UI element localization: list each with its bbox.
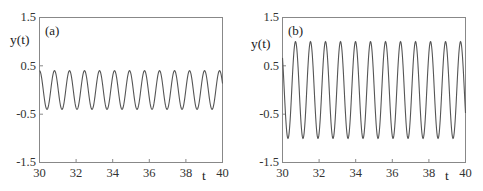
panel-b-xtick-label: 30 <box>276 166 289 180</box>
panel-b-xtick-label: 34 <box>349 166 362 180</box>
figure: 1.5 0.5 -0.5 -1.5 y(t) (a) 30 32 34 36 3… <box>0 0 483 191</box>
panel-b-curve <box>283 42 466 139</box>
panel-a-xtick-label: 32 <box>70 166 83 180</box>
panel-a-ytick-label: -0.5 <box>16 107 36 121</box>
panel-b-ytick-label: 0.5 <box>263 59 279 73</box>
panel-a-xlabel: t <box>202 168 206 183</box>
panel-b-ytick-label: -0.5 <box>259 107 279 121</box>
panel-a-xtick-label: 36 <box>143 166 156 180</box>
panel-a: 1.5 0.5 -0.5 -1.5 y(t) (a) 30 32 34 36 3… <box>10 10 229 183</box>
panel-a-ytick-label: 1.5 <box>20 10 36 24</box>
panel-a-frame <box>40 18 223 163</box>
panel-a-xtick-label: 30 <box>33 166 46 180</box>
panel-b: 1.5 0.5 -0.5 -1.5 y(t) (b) 30 32 34 36 3… <box>251 10 472 183</box>
panel-a-curve <box>40 71 223 110</box>
panel-b-ylabel: y(t) <box>251 36 271 51</box>
panel-a-xtick-label: 40 <box>216 166 229 180</box>
panel-a-label: (a) <box>45 23 59 38</box>
panel-b-xtick-label: 32 <box>313 166 326 180</box>
panel-a-ylabel: y(t) <box>10 32 30 47</box>
panel-b-label: (b) <box>288 23 303 38</box>
panel-b-xtick-label: 40 <box>459 166 472 180</box>
panel-a-xtick-label: 34 <box>106 166 119 180</box>
panel-b-xlabel: t <box>445 168 449 183</box>
panel-a-ytick-label: 0.5 <box>20 59 36 73</box>
panel-b-ytick-label: 1.5 <box>263 10 279 24</box>
panel-b-xtick-label: 36 <box>386 166 399 180</box>
panel-b-xtick-label: 38 <box>423 166 436 180</box>
panel-a-xtick-label: 38 <box>180 166 193 180</box>
